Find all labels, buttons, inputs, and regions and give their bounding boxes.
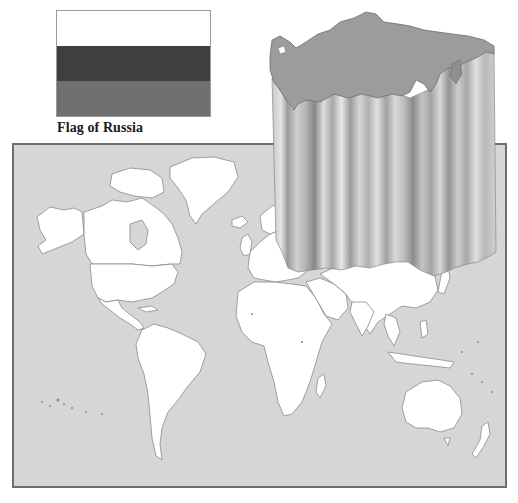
flag-band-gray: [57, 81, 210, 116]
white-sea: [278, 46, 286, 54]
world-map-outline: [14, 145, 507, 488]
philippines: [420, 320, 428, 338]
kamchatka: [450, 60, 462, 84]
europe: [248, 228, 312, 282]
flag-band-dark: [57, 46, 210, 81]
arctic-islands: [110, 168, 164, 198]
world-map: [12, 143, 507, 488]
russia-top-face: [270, 12, 494, 110]
tasmania: [444, 438, 450, 446]
indonesia: [388, 352, 454, 368]
usa: [90, 264, 178, 302]
flag-of-russia: [56, 10, 211, 117]
japan: [438, 266, 450, 294]
australia: [402, 380, 462, 432]
new-zealand: [472, 422, 490, 458]
iceland: [232, 216, 248, 228]
south-america: [136, 324, 206, 460]
caribbean: [138, 306, 158, 312]
greenland: [170, 157, 238, 224]
madagascar: [316, 374, 326, 398]
mexico-central-america: [98, 298, 144, 330]
flag-band-white: [57, 11, 210, 46]
southeast-asia: [384, 314, 400, 346]
uk: [240, 234, 252, 256]
alaska: [37, 207, 84, 254]
flag-caption: Flag of Russia: [57, 120, 143, 136]
